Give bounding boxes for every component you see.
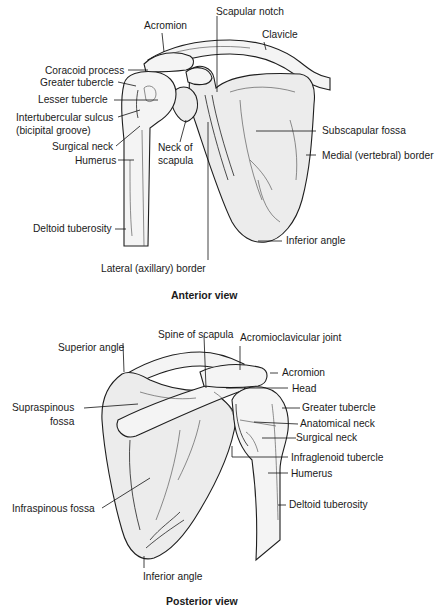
label-supraspinous: Supraspinous [12, 402, 74, 413]
label-lateral-border: Lateral (axillary) border [101, 263, 206, 274]
label-deltoid-tuberosity: Deltoid tuberosity [289, 499, 369, 510]
label-spine-of-scapula: Spine of scapula [158, 329, 234, 340]
anterior-view-title: Anterior view [171, 289, 238, 301]
label-head: Head [292, 383, 317, 394]
diagram-canvas: Acromion Scapular notch Clavicle Coracoi… [0, 0, 447, 612]
label-anatomical-neck: Anatomical neck [300, 418, 376, 429]
label-coracoid-process: Coracoid process [45, 65, 124, 76]
posterior-view-title: Posterior view [166, 595, 239, 607]
label-subscapular-fossa: Subscapular fossa [322, 125, 406, 136]
label-inferior-angle: Inferior angle [143, 571, 203, 582]
label-supraspinous-fossa: fossa [50, 416, 75, 427]
label-surgical-neck: Surgical neck [296, 432, 358, 443]
posterior-view: Spine of scapula Superior angle Acromioc… [12, 329, 384, 607]
label-intertubercular-sulcus: Intertubercular sulcus [16, 112, 113, 123]
label-lesser-tubercle: Lesser tubercle [38, 94, 108, 105]
label-infraglenoid-tubercle: Infraglenoid tubercle [291, 452, 384, 463]
label-greater-tubercle: Greater tubercle [40, 77, 114, 88]
label-acromion: Acromion [282, 367, 325, 378]
label-medial-border: Medial (vertebral) border [322, 150, 434, 161]
label-superior-angle: Superior angle [58, 342, 125, 353]
label-surgical-neck: Surgical neck [52, 141, 114, 152]
label-acromioclavicular-joint: Acromioclavicular joint [240, 332, 342, 343]
label-greater-tubercle: Greater tubercle [302, 402, 376, 413]
label-humerus: Humerus [291, 468, 332, 479]
anterior-view: Acromion Scapular notch Clavicle Coracoi… [16, 6, 434, 301]
label-bicipital-groove: (bicipital groove) [16, 125, 91, 136]
label-clavicle: Clavicle [262, 29, 298, 40]
label-deltoid-tuberosity: Deltoid tuberosity [33, 223, 113, 234]
label-neck-of-scapula-1: Neck of [158, 142, 193, 153]
label-scapular-notch: Scapular notch [216, 6, 284, 17]
label-inferior-angle: Inferior angle [286, 235, 346, 246]
label-acromion: Acromion [144, 20, 187, 31]
label-infraspinous-fossa: Infraspinous fossa [12, 503, 95, 514]
shoulder-girdle-diagram: Acromion Scapular notch Clavicle Coracoi… [0, 0, 447, 612]
label-neck-of-scapula-2: scapula [158, 155, 193, 166]
label-humerus: Humerus [75, 155, 116, 166]
